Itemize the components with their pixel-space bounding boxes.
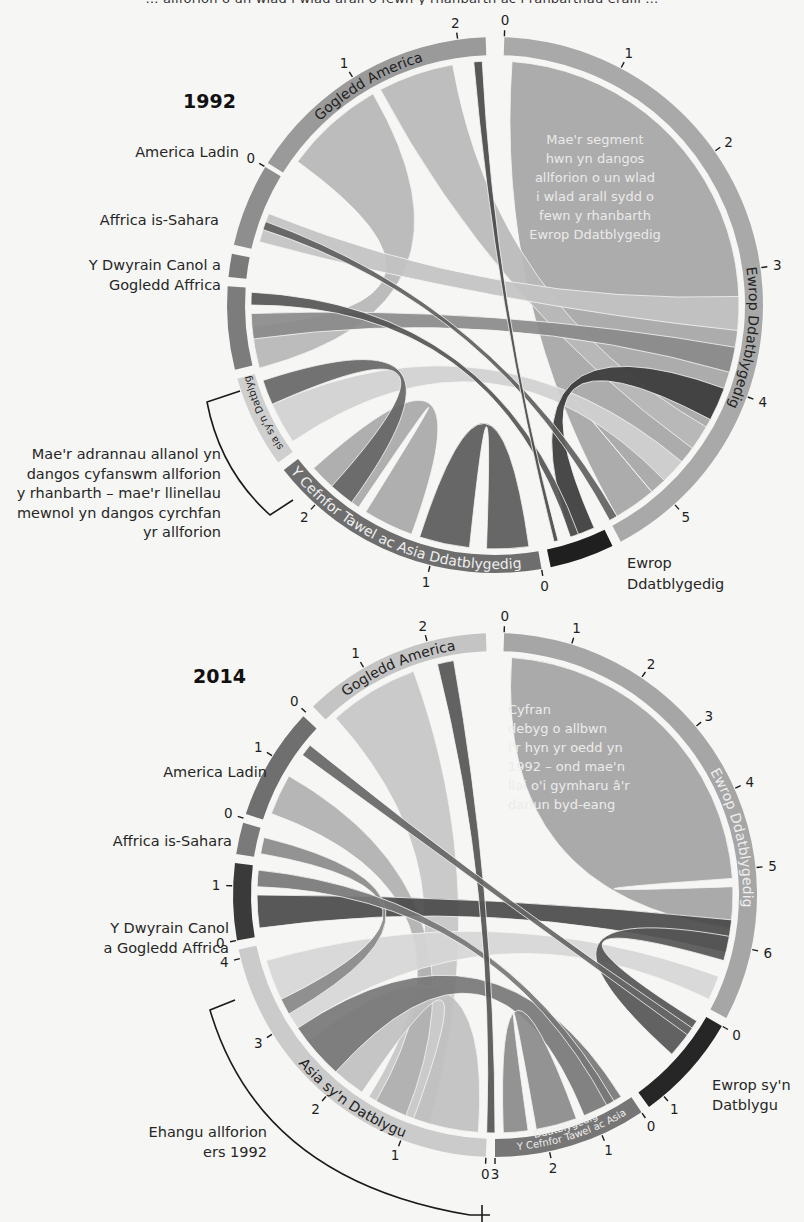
tick-mark: [642, 1113, 645, 1118]
label-ewrop-outer-1992: Ewrop Ddatblygedig: [627, 553, 724, 595]
tick-label: 1: [351, 645, 360, 661]
tick-label: 2: [724, 134, 733, 150]
tick-mark: [349, 72, 352, 77]
note-line: Mae'r adrannau allanol yn: [17, 445, 221, 465]
tick-mark: [723, 1027, 728, 1030]
note-line: 1992 – ond mae'n: [508, 757, 648, 776]
tick-label: 1: [212, 877, 221, 893]
tick-label: 0: [732, 1027, 741, 1043]
tick-label: 2: [418, 618, 427, 634]
tick-mark: [664, 1096, 668, 1101]
tick-label: 4: [759, 394, 768, 410]
tick-label: 0: [481, 1166, 490, 1182]
note-line: mewnol yn dangos cyrchfan: [17, 504, 221, 524]
chord-diagram-1992: 012345012012: [227, 12, 782, 593]
tick-label: 1: [391, 1147, 400, 1163]
inner-note-2014: Cyfran debyg o allbwn i'r hyn yr oedd yn…: [508, 700, 648, 814]
tick-label: 3: [254, 1035, 263, 1051]
tick-label: 0: [500, 608, 509, 624]
tick-label: 3: [704, 708, 713, 724]
tick-label: 1: [254, 739, 263, 755]
tick-mark: [322, 1096, 326, 1101]
outer-note-2014: Ehangu allforion ers 1992: [149, 1122, 267, 1162]
label-line: Ddatblygedig: [627, 574, 724, 595]
tick-label: 1: [604, 1142, 613, 1158]
inner-note-1992: Mae'r segment hwn yn dangos allforion o …: [520, 130, 670, 244]
tick-mark: [399, 1141, 401, 1147]
tick-mark: [761, 267, 767, 268]
tick-mark: [642, 672, 645, 677]
tick-label: 0: [540, 578, 549, 594]
ring-segment: [227, 286, 252, 370]
label-line: Ewrop: [627, 553, 724, 574]
tick-mark: [238, 816, 244, 818]
tick-label: 1: [572, 620, 581, 636]
tick-mark: [234, 959, 240, 960]
label-line: a Gogledd Affrica: [103, 938, 229, 958]
tick-label: 5: [768, 858, 777, 874]
tick-mark: [301, 708, 305, 712]
tick-mark: [457, 33, 458, 39]
tick-mark: [715, 147, 720, 150]
label-america-ladin-1992: America Ladin: [135, 142, 239, 162]
tick-label: 0: [224, 805, 233, 821]
tick-label: 2: [647, 656, 656, 672]
tick-mark: [428, 566, 429, 572]
tick-label: 0: [290, 693, 299, 709]
ring-segment: [236, 823, 260, 857]
tick-mark: [542, 570, 543, 576]
tick-label: 2: [300, 509, 309, 525]
label-affrica-1992: Affrica is-Sahara: [100, 210, 219, 230]
label-ewrop-outer-2014: Ewrop sy'n Datblygu: [712, 1075, 791, 1115]
chord-diagram-2014: 0123456010123012340101012: [212, 608, 777, 1182]
label-line: Datblygu: [712, 1095, 791, 1115]
tick-label: 1: [625, 45, 634, 61]
tick-mark: [361, 662, 364, 667]
tick-label: 0: [647, 1118, 656, 1134]
note-line: ers 1992: [149, 1142, 267, 1162]
label-line: Ewrop sy'n: [712, 1075, 791, 1095]
note-line: darlun byd-eang: [508, 795, 648, 814]
note-line: i'r hyn yr oedd yn: [508, 738, 648, 757]
note-line: i wlad arall sydd o: [520, 187, 670, 206]
tick-mark: [311, 505, 315, 509]
tick-mark: [267, 1034, 272, 1037]
label-line: Gogledd Affrica: [89, 275, 221, 295]
tick-mark: [748, 397, 754, 399]
tick-mark: [550, 1152, 551, 1158]
note-line: Cyfran: [508, 700, 648, 719]
label-line: Y Dwyrain Canol: [103, 918, 229, 938]
tick-mark: [267, 752, 272, 755]
label-america-ladin-2014: America Ladin: [163, 762, 267, 782]
note-line: dangos cyfanswm allforion: [17, 465, 221, 485]
note-line: Ehangu allforion: [149, 1122, 267, 1142]
label-dwyrain-canol-1992: Y Dwyrain Canol a Gogledd Affrica: [89, 255, 221, 295]
note-line: hwn yn dangos: [520, 149, 670, 168]
note-line: Mae'r segment: [520, 130, 670, 149]
tick-mark: [752, 950, 758, 951]
tick-mark: [572, 638, 574, 644]
note-line: y rhanbarth – mae'r llinellau: [17, 484, 221, 504]
tick-mark: [735, 786, 740, 788]
note-line: Ewrop Ddatblygedig: [520, 225, 670, 244]
tick-label: 2: [451, 15, 460, 31]
tick-label: 0: [246, 150, 255, 166]
ring-segment: [228, 254, 249, 279]
tick-mark: [621, 62, 624, 67]
year-title-2014: 2014: [193, 665, 246, 687]
note-line: allforion o un wlad: [520, 168, 670, 187]
ring-segment: [233, 863, 255, 940]
label-line: Y Dwyrain Canol a: [89, 255, 221, 275]
tick-mark: [259, 163, 264, 166]
tick-label: 3: [491, 1166, 500, 1182]
tick-label: 2: [549, 1160, 558, 1176]
tick-mark: [602, 1135, 604, 1140]
tick-label: 4: [746, 774, 755, 790]
tick-label: 1: [670, 1101, 679, 1117]
tick-label: 5: [681, 509, 690, 525]
tick-label: 2: [311, 1101, 320, 1117]
note-line: debyg o allbwn: [508, 719, 648, 738]
tick-mark: [425, 635, 427, 641]
outer-note-1992: Mae'r adrannau allanol yn dangos cyfansw…: [17, 445, 221, 543]
note-line: yr allforion: [17, 523, 221, 543]
